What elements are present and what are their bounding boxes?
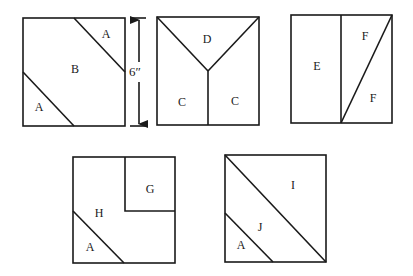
block-1-top-diagonal [74,18,125,72]
dimension-label: 6″ [129,64,141,79]
piece-label-e: E [313,59,320,73]
piece-label-a: A [102,27,111,41]
dimension-indicator: 6″ [129,18,146,126]
block-4: G H A [73,157,175,263]
block-2-left-diagonal [157,17,208,71]
quilt-block-diagram: A B A 6″ D C C E F F [0,0,413,276]
block-5: I J A [225,155,326,262]
piece-label-b: B [71,62,79,76]
piece-label-f: F [370,91,377,105]
piece-label-j: J [258,220,263,234]
piece-label-f: F [362,29,369,43]
piece-label-a: A [237,238,246,252]
piece-label-i: I [291,178,295,192]
piece-label-h: H [95,206,104,220]
piece-label-d: D [203,32,212,46]
block-3: E F F [291,15,392,123]
block-2-right-diagonal [208,17,259,71]
piece-label-a: A [86,240,95,254]
piece-label-c: C [231,94,239,108]
block-1-bottom-diagonal [23,72,74,126]
piece-label-c: C [178,95,186,109]
block-5-short-diagonal [225,213,273,262]
block-2: D C C [157,17,259,125]
piece-label-a: A [35,100,44,114]
block-1: A B A [23,18,125,126]
piece-label-g: G [146,182,155,196]
